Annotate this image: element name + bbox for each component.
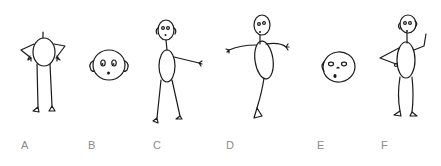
figure-a <box>21 32 65 112</box>
label-b: B <box>88 139 95 151</box>
label-a: A <box>21 139 28 151</box>
figure-c <box>153 20 202 123</box>
figure-canvas: A B C D E F <box>0 0 441 166</box>
figure-d <box>226 15 289 118</box>
label-c: C <box>153 139 161 151</box>
figure-b <box>90 50 128 80</box>
label-d: D <box>226 139 234 151</box>
figure-f <box>380 15 426 116</box>
figure-e <box>321 49 358 84</box>
label-e: E <box>317 139 324 151</box>
label-f: F <box>381 139 388 151</box>
